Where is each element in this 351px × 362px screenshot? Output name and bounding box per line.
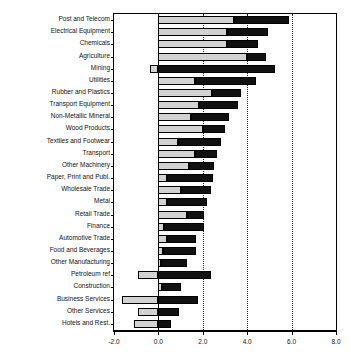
y-axis-label: Metal [94, 197, 110, 205]
bar-segment-light [122, 296, 159, 304]
bar-segment-dark [167, 198, 207, 206]
bar-segment-light [158, 174, 167, 182]
y-axis-tick [111, 69, 114, 70]
y-axis-label: Transport Equipment [50, 100, 110, 108]
y-axis-label: Retail Trade [75, 210, 110, 218]
bar-segment-light [158, 89, 211, 97]
bar-segment-light [138, 308, 158, 316]
x-axis-tick [247, 331, 248, 335]
bar-segment-light [158, 101, 199, 109]
gridline [292, 14, 293, 330]
bar-segment-dark [167, 174, 213, 182]
bar-segment-dark [161, 259, 188, 267]
bar-segment-light [158, 150, 195, 158]
bar-segment-light [158, 113, 190, 121]
y-axis-tick [111, 44, 114, 45]
bar-segment-dark [191, 113, 230, 121]
bar-segment-light [138, 271, 158, 279]
plot-area [113, 13, 337, 331]
y-axis-tick [111, 190, 114, 191]
y-axis-label: Chemicals [80, 39, 110, 47]
bar-segment-dark [247, 53, 266, 61]
bar-segment-dark [181, 186, 211, 194]
y-axis-label: Other Manufacturing [51, 258, 110, 266]
y-axis-tick [111, 20, 114, 21]
bar-segment-dark [203, 125, 225, 133]
bar-segment-dark [158, 296, 198, 304]
y-axis-label: Hotels and Rest. [62, 319, 110, 327]
y-axis-tick [111, 227, 114, 228]
bar-segment-dark [158, 308, 179, 316]
bar-segment-light [158, 198, 167, 206]
bar-segment-dark [164, 223, 204, 231]
x-axis-tick-label: 4.0 [232, 337, 262, 346]
y-axis-tick [111, 251, 114, 252]
y-axis-label: Utilities [89, 76, 110, 84]
y-axis-tick [111, 178, 114, 179]
x-axis-tick-label: 8.0 [321, 337, 351, 346]
x-axis-tick-label: 2.0 [188, 337, 218, 346]
bar-segment-light [158, 28, 227, 36]
bar-segment-dark [195, 150, 217, 158]
y-axis-label: Wholesale Trade [61, 185, 110, 193]
y-axis-label: Automotive Trade [59, 234, 110, 242]
y-axis-label: Construction [74, 282, 111, 290]
x-axis-line [113, 331, 337, 332]
y-axis-tick [111, 142, 114, 143]
x-axis-tick [114, 331, 115, 335]
bar-segment-light [158, 125, 202, 133]
y-axis-label: Mining [91, 64, 110, 72]
x-axis-tick [336, 331, 337, 335]
bar-segment-dark [178, 138, 220, 146]
bar-segment-light [158, 77, 195, 85]
y-axis-label: Business Services [57, 295, 110, 303]
y-axis-tick [111, 93, 114, 94]
y-axis-tick [111, 154, 114, 155]
gridline [203, 14, 204, 330]
y-axis-label: Other Services [67, 307, 110, 315]
bar-segment-light [158, 138, 178, 146]
y-axis-tick [111, 312, 114, 313]
bar-segment-dark [189, 162, 213, 170]
y-axis-label: Paper, Print and Publ. [47, 173, 110, 181]
x-axis-tick [203, 331, 204, 335]
bar-chart: Post and TelecomElectrical EquipmentChem… [0, 0, 351, 362]
y-axis-label: Rubber and Plastics [52, 88, 110, 96]
y-axis-tick [111, 263, 114, 264]
y-axis-label: Transport [82, 149, 110, 157]
bar-segment-dark [227, 28, 268, 36]
plot-inner [114, 14, 336, 330]
x-axis-tick-label: 6.0 [277, 337, 307, 346]
bar-segment-dark [227, 40, 258, 48]
bar-segment-dark [195, 77, 256, 85]
bar-segment-light [158, 16, 233, 24]
bar-segment-dark [187, 211, 204, 219]
y-axis-tick [111, 166, 114, 167]
y-axis-tick [111, 57, 114, 58]
y-axis-label: Textiles and Footwear [47, 137, 110, 145]
y-axis-tick [111, 32, 114, 33]
y-axis-tick [111, 117, 114, 118]
y-axis-tick [111, 215, 114, 216]
bar-segment-dark [212, 89, 241, 97]
y-axis-label: Petroleum ref [71, 270, 110, 278]
y-axis-label: Other Machinery [62, 161, 110, 169]
y-axis-tick [111, 287, 114, 288]
y-axis-tick [111, 129, 114, 130]
bar-segment-dark [158, 65, 275, 73]
x-axis-tick-label: -2.0 [99, 337, 129, 346]
x-axis-tick-label: 0.0 [143, 337, 173, 346]
bar-segment-light [134, 320, 158, 328]
bar-segment-light [158, 40, 227, 48]
bar-segment-light [158, 162, 189, 170]
bar-segment-dark [158, 320, 170, 328]
y-axis-label: Food and Beverages [50, 246, 110, 254]
bar-segment-dark [158, 271, 210, 279]
y-axis-label: Agriculture [79, 52, 110, 60]
y-axis-label: Non-Metallic Mineral [51, 112, 110, 120]
bar-segment-dark [234, 16, 290, 24]
y-axis-label: Wood Products [66, 124, 110, 132]
y-axis-tick [111, 275, 114, 276]
y-axis-tick [111, 324, 114, 325]
y-axis-label: Post and Telecom [58, 15, 110, 23]
